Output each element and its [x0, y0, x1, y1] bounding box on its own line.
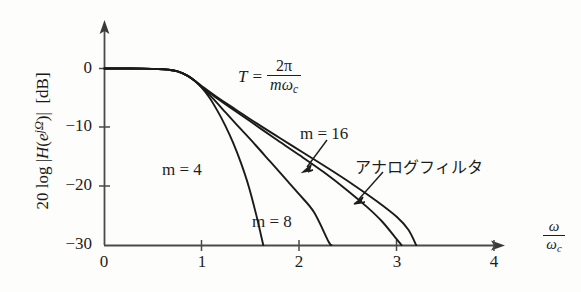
x-tick-label-4: 4	[480, 252, 508, 272]
x-axis-title-fraction: ω ωc	[543, 219, 564, 254]
x-axis-title-numerator: ω	[543, 219, 564, 236]
equation-T-lhs: T	[238, 68, 247, 85]
curve-label-analog-filter: アナログフィルタ	[355, 154, 483, 178]
x-tick-label-2: 2	[285, 252, 313, 272]
y-tick-label-minus10: −10	[38, 116, 92, 136]
x-axis-title: ω ωc	[534, 219, 574, 254]
x-tick-label-1: 1	[188, 252, 216, 272]
y-title-abs-open: |	[33, 159, 52, 162]
y-tick-label-0: 0	[48, 58, 92, 78]
curve-label-m16: m = 16	[300, 124, 348, 144]
figure-root: 20 log |H(ejΩ)| [dB] 0 −10 −20 −30 0 1 2…	[0, 0, 581, 292]
y-title-abs-close: |	[33, 112, 52, 115]
equation-T-fraction: 2π mωc	[267, 58, 301, 96]
y-tick-label-minus20: −20	[38, 175, 92, 195]
x-tick-label-0: 0	[90, 252, 118, 272]
y-title-h: H	[33, 147, 52, 159]
equation-T-equals: =	[252, 68, 262, 85]
leader-m16	[307, 140, 327, 167]
y-tick-label-minus30: −30	[38, 234, 92, 254]
x-axis-title-denominator: ωc	[543, 236, 564, 254]
equation-T-numerator: 2π	[267, 58, 301, 76]
curve-label-m4: m = 4	[162, 160, 202, 180]
x-tick-label-3: 3	[383, 252, 411, 272]
equation-T: T = 2π mωc	[238, 58, 301, 96]
curve-label-m8: m = 8	[252, 212, 292, 232]
y-title-paren-open: (	[33, 141, 52, 147]
equation-T-denominator: mωc	[267, 76, 301, 96]
